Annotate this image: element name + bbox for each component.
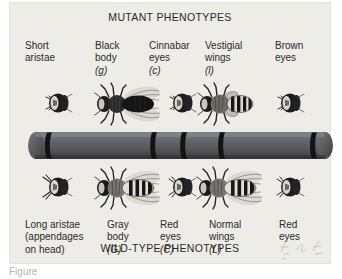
figure-root: MUTANT PHENOTYPES Short aristae Black bo…	[0, 0, 342, 279]
fly-head-red-eyes-left	[165, 172, 199, 202]
fly-head-brown-eyes	[273, 88, 307, 118]
label-wildtype-0: Long aristae (appendages on head)	[25, 207, 103, 268]
fly-gray-body	[93, 166, 163, 210]
mutant-phenotypes-heading: MUTANT PHENOTYPES	[9, 11, 331, 23]
label-mutant-2-trait: Cinnabar eyes	[149, 40, 190, 63]
label-wildtype-2-trait: Red eyes	[160, 219, 181, 242]
label-mutant-3-trait: Vestigial wings	[205, 40, 242, 63]
fly-black-body	[93, 82, 163, 126]
fly-head-red-eyes-right	[273, 172, 307, 202]
label-mutant-1: Black body (g)	[95, 28, 153, 77]
label-mutant-1-trait: Black body	[95, 40, 119, 63]
label-mutant-2: Cinnabar eyes (c)	[149, 28, 207, 77]
label-mutant-2-allele: (c)	[149, 65, 161, 76]
figure-panel: MUTANT PHENOTYPES Short aristae Black bo…	[9, 2, 331, 264]
fly-vestigial-wings	[195, 82, 257, 126]
figure-caption: Figure	[9, 266, 37, 277]
fly-head-cinnabar-eyes	[165, 88, 199, 118]
label-mutant-0: Short aristae	[25, 28, 87, 77]
chromosome-bar	[27, 128, 333, 162]
fly-head-long-aristae	[41, 172, 75, 202]
fly-head-short-aristae	[41, 88, 75, 118]
fly-normal-wings	[195, 166, 265, 210]
label-mutant-4-trait: Brown eyes	[275, 40, 303, 63]
label-mutant-3: Vestigial wings (l)	[205, 28, 263, 77]
label-mutant-0-trait: Short aristae	[25, 40, 55, 63]
label-mutant-3-allele: (l)	[205, 65, 214, 76]
handwriting-scribble	[277, 238, 331, 262]
label-mutant-4: Brown eyes	[275, 28, 331, 77]
label-mutant-1-allele: (g)	[95, 65, 107, 76]
label-wildtype-3-trait: Normal wings	[209, 219, 241, 242]
label-wildtype-1-trait: Gray body	[107, 219, 129, 242]
